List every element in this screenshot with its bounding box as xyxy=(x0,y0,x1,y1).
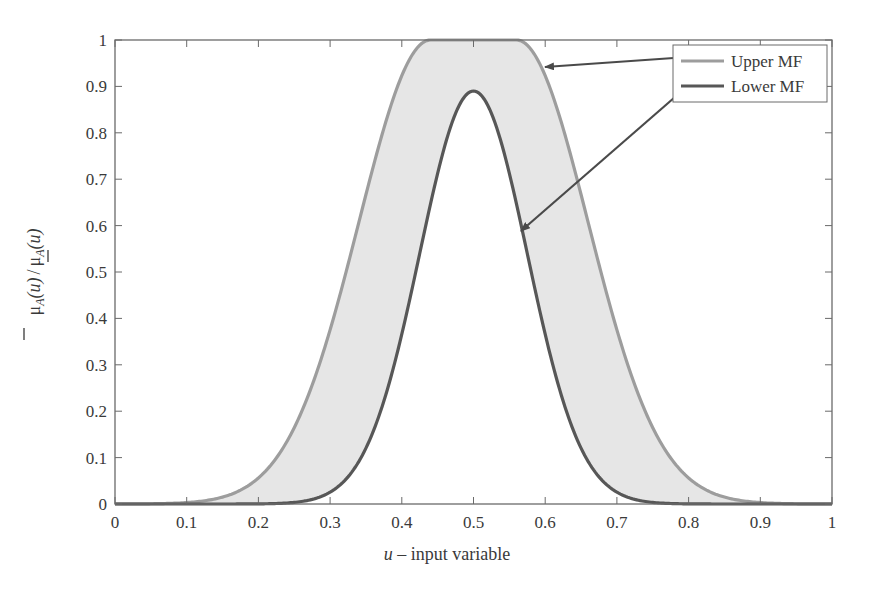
y-axis-label: μA(u)/μA(u) xyxy=(24,228,48,340)
plot-area-frame xyxy=(115,40,832,504)
x-axis-ticks: 00.10.20.30.40.50.60.70.80.91 xyxy=(111,40,837,532)
x-tick-label: 0.5 xyxy=(463,513,484,532)
x-tick-label: 0 xyxy=(111,513,120,532)
upper-mf-curve xyxy=(115,40,832,504)
x-tick-label: 0.9 xyxy=(750,513,771,532)
x-tick-label: 0.7 xyxy=(606,513,628,532)
lower-mf-curve xyxy=(115,91,832,504)
y-tick-label: 0 xyxy=(99,495,108,514)
x-tick-label: 0.6 xyxy=(535,513,556,532)
upper-mf-annotation-arrow xyxy=(545,57,688,67)
x-tick-label: 0.8 xyxy=(678,513,699,532)
y-tick-label: 1 xyxy=(99,31,108,50)
x-axis-label: u – input variable xyxy=(384,544,510,564)
x-tick-label: 0.4 xyxy=(391,513,413,532)
y-tick-label: 0.3 xyxy=(86,356,107,375)
x-tick-label: 0.3 xyxy=(319,513,340,532)
y-tick-label: 0.2 xyxy=(86,402,107,421)
y-tick-label: 0.1 xyxy=(86,449,107,468)
y-tick-label: 0.9 xyxy=(86,77,107,96)
svg-text:μA(u)/μA(u): μA(u)/μA(u) xyxy=(24,228,47,315)
y-tick-label: 0.5 xyxy=(86,263,107,282)
y-tick-label: 0.6 xyxy=(86,217,107,236)
legend-lower-label: Lower MF xyxy=(731,77,804,96)
y-tick-label: 0.8 xyxy=(86,124,107,143)
legend: Upper MF Lower MF xyxy=(673,45,827,102)
footprint-of-uncertainty-fill xyxy=(115,40,832,504)
legend-upper-label: Upper MF xyxy=(731,52,802,71)
x-tick-label: 0.2 xyxy=(248,513,269,532)
x-tick-label: 1 xyxy=(828,513,837,532)
y-tick-label: 0.7 xyxy=(86,170,108,189)
x-tick-label: 0.1 xyxy=(176,513,197,532)
chart-canvas: 00.10.20.30.40.50.60.70.80.91 00.10.20.3… xyxy=(0,0,876,590)
y-tick-label: 0.4 xyxy=(86,309,108,328)
